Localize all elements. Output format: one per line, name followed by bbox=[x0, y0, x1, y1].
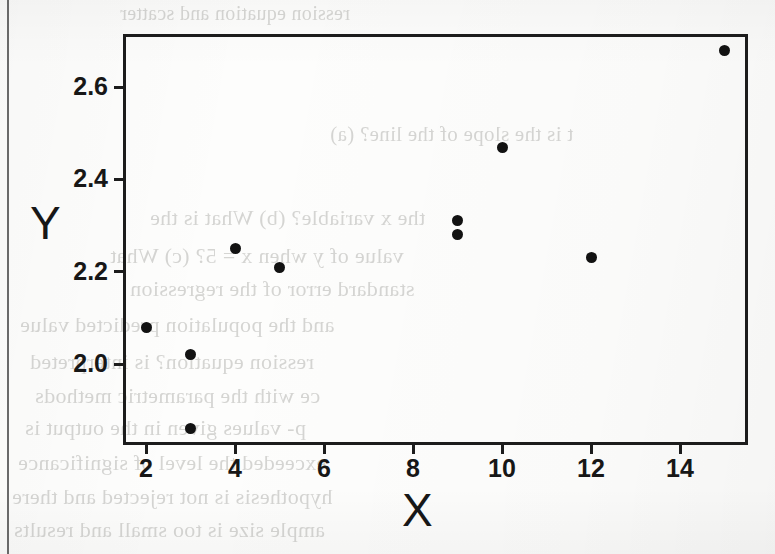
x-tick-mark bbox=[679, 445, 682, 454]
x-tick-mark bbox=[323, 445, 326, 454]
y-tick-label: 2.0 bbox=[38, 351, 108, 376]
x-tick-label: 14 bbox=[650, 456, 710, 481]
x-tick-mark bbox=[234, 445, 237, 454]
x-tick-label: 12 bbox=[561, 456, 621, 481]
x-axis-title: X bbox=[402, 487, 433, 533]
data-point bbox=[230, 243, 241, 254]
data-point bbox=[497, 142, 508, 153]
x-tick-mark bbox=[412, 445, 415, 454]
y-tick-label: 2.6 bbox=[38, 74, 108, 99]
data-point bbox=[586, 252, 597, 263]
x-tick-mark bbox=[501, 445, 504, 454]
y-tick-mark bbox=[114, 270, 123, 273]
x-tick-label: 2 bbox=[116, 456, 176, 481]
data-point bbox=[141, 322, 152, 333]
x-tick-label: 8 bbox=[383, 456, 443, 481]
scatter-chart: 2.02.22.42.6 2468101214 Y X bbox=[0, 0, 775, 554]
plot-frame bbox=[123, 34, 748, 445]
x-tick-label: 4 bbox=[205, 456, 265, 481]
y-tick-mark bbox=[114, 86, 123, 89]
data-point bbox=[719, 45, 730, 56]
x-tick-label: 10 bbox=[472, 456, 532, 481]
y-tick-mark bbox=[114, 363, 123, 366]
data-point bbox=[274, 262, 285, 273]
y-tick-label: 2.2 bbox=[38, 259, 108, 284]
x-tick-mark bbox=[590, 445, 593, 454]
y-axis-title: Y bbox=[30, 200, 61, 246]
y-tick-mark bbox=[114, 178, 123, 181]
scanned-page: ression equation and scattert is the slo… bbox=[0, 0, 775, 554]
x-tick-mark bbox=[145, 445, 148, 454]
y-tick-label: 2.4 bbox=[38, 166, 108, 191]
x-tick-label: 6 bbox=[294, 456, 354, 481]
